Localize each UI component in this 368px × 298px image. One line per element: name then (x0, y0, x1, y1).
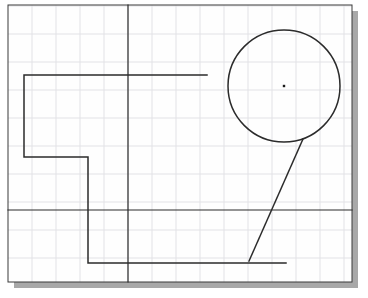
drawing-canvas[interactable] (0, 0, 368, 298)
cad-drawing-screen (0, 0, 368, 298)
circle-center-point[interactable] (283, 85, 285, 87)
